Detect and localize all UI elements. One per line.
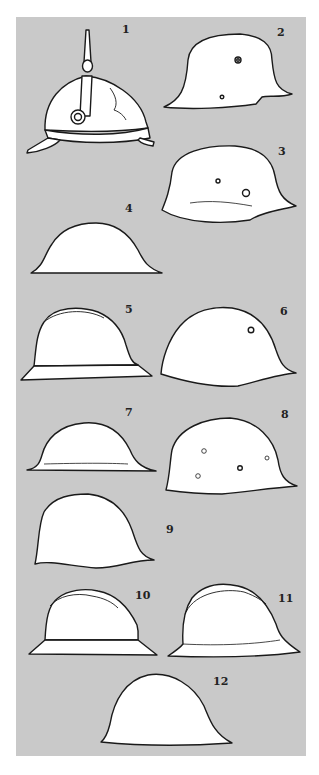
helmet-illustrations [0,0,319,775]
figure-label-11: 11 [278,592,293,605]
figure-label-8: 8 [281,408,289,421]
helmet-3-m1935-icon [162,146,296,222]
figure-label-10: 10 [135,589,150,602]
helmet-9-icon [35,494,154,568]
figure-label-7: 7 [125,406,133,419]
helmet-2-stahlhelm-icon [164,34,292,108]
figure-label-2: 2 [277,26,285,39]
figure-label-5: 5 [125,303,133,316]
figure-label-4: 4 [125,202,133,215]
helmet-1-pickelhaube-icon [27,30,154,153]
helmet-8-icon [166,418,297,494]
figure-label-9: 9 [166,523,174,536]
figure-label-3: 3 [278,145,286,158]
helmet-7-icon [27,423,156,471]
figure-label-6: 6 [280,305,288,318]
figure-label-1: 1 [122,23,130,36]
helmet-4-icon [31,223,162,273]
helmet-6-icon [161,308,296,387]
helmet-5-adrian-icon [21,308,152,380]
figure-label-12: 12 [213,675,228,688]
